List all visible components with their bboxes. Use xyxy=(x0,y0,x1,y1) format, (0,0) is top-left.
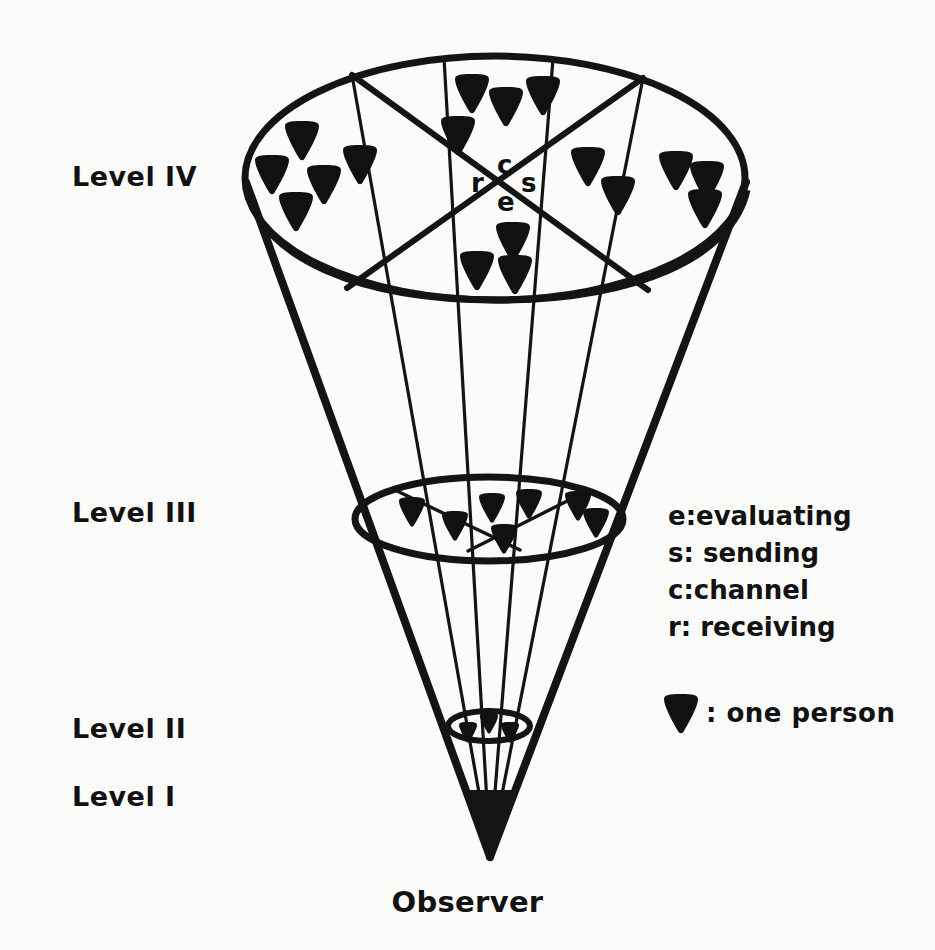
person-marker xyxy=(255,155,289,194)
person-marker xyxy=(659,151,693,190)
person-marker xyxy=(479,493,505,523)
person-marker xyxy=(399,497,425,527)
center-label-s: s xyxy=(521,168,536,198)
center-label-e: e xyxy=(497,187,515,217)
center-label-r: r xyxy=(471,168,484,198)
level-2-label: Level II xyxy=(72,713,186,744)
person-wedge-icon-spacer xyxy=(660,692,702,734)
legend-item-receiving: r: receiving xyxy=(668,609,852,646)
person-marker xyxy=(571,147,605,186)
person-marker xyxy=(279,192,313,231)
level-4-label: Level IV xyxy=(72,161,197,192)
legend-person-entry: : one person xyxy=(660,692,895,734)
person-marker xyxy=(460,251,494,290)
legend-item-evaluating: e:evaluating xyxy=(668,498,852,535)
level-3-label: Level III xyxy=(72,497,197,528)
level-1-label: Level I xyxy=(72,781,176,812)
person-marker xyxy=(455,74,489,113)
person-marker xyxy=(688,189,722,228)
person-marker xyxy=(601,176,635,215)
legend-abbreviations: e:evaluating s: sending c:channel r: rec… xyxy=(668,498,852,646)
person-marker xyxy=(583,508,609,538)
legend-person-label: : one person xyxy=(706,698,895,728)
observer-caption: Observer xyxy=(0,885,935,919)
person-marker xyxy=(285,121,319,160)
person-marker xyxy=(489,87,523,126)
person-marker xyxy=(498,255,532,294)
center-label-c: c xyxy=(497,150,512,180)
legend-item-sending: s: sending xyxy=(668,535,852,572)
person-marker xyxy=(441,116,475,155)
person-marker xyxy=(526,76,560,115)
person-marker xyxy=(442,511,468,541)
legend-item-channel: c:channel xyxy=(668,572,852,609)
